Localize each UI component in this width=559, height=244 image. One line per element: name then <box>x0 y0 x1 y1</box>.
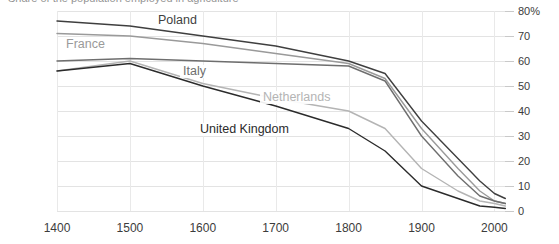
chart-container: Share of the population employed in agri… <box>0 0 559 244</box>
series-label-italy: Italy <box>180 65 209 78</box>
x-tick-label: 1800 <box>335 222 362 234</box>
y-tick-label: 30 <box>518 131 530 142</box>
plot-area <box>57 11 509 211</box>
y-tick-label: 80% <box>518 6 540 17</box>
y-tick-label: 0 <box>518 206 524 217</box>
y-tick-mark <box>505 136 514 137</box>
y-tick-label: 40 <box>518 106 530 117</box>
y-tick-mark <box>505 11 514 12</box>
x-tick-label: 1400 <box>44 222 71 234</box>
gridline-horizontal <box>57 211 509 212</box>
chart-title: Share of the population employed in agri… <box>8 0 288 4</box>
y-tick-label: 50 <box>518 81 530 92</box>
y-tick-mark <box>505 36 514 37</box>
y-tick-mark <box>505 61 514 62</box>
y-tick-label: 10 <box>518 181 530 192</box>
y-tick-mark <box>505 111 514 112</box>
series-label-netherlands: Netherlands <box>260 91 333 104</box>
y-tick-mark <box>505 186 514 187</box>
series-line-united-kingdom <box>57 64 505 209</box>
y-tick-mark <box>505 161 514 162</box>
x-tick-label: 1700 <box>262 222 289 234</box>
y-tick-mark <box>505 211 514 212</box>
x-tick-label: 1600 <box>189 222 216 234</box>
x-tick-label: 2000 <box>481 222 508 234</box>
y-tick-label: 70 <box>518 31 530 42</box>
series-line-poland <box>57 21 505 199</box>
series-lines <box>57 11 509 211</box>
series-label-united-kingdom: United Kingdom <box>197 123 292 136</box>
y-tick-label: 20 <box>518 156 530 167</box>
y-tick-mark <box>505 86 514 87</box>
x-tick-label: 1500 <box>117 222 144 234</box>
y-tick-label: 60 <box>518 56 530 67</box>
series-label-poland: Poland <box>155 14 200 27</box>
x-tick-label: 1900 <box>408 222 435 234</box>
series-label-france: France <box>63 38 108 51</box>
